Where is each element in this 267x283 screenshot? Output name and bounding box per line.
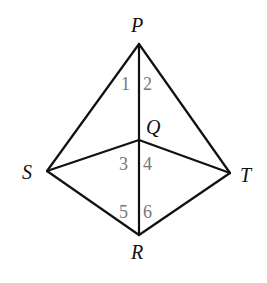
angle-label-1: 1	[121, 74, 130, 94]
vertex-label-s: S	[22, 161, 32, 183]
angle-label-6: 6	[143, 202, 152, 222]
edges	[47, 44, 230, 235]
edge-rt	[139, 173, 230, 235]
angle-labels: 1 2 3 4 5 6	[119, 74, 152, 222]
vertex-label-p: P	[130, 14, 143, 36]
vertex-labels: P Q S T R	[22, 14, 253, 263]
vertex-label-t: T	[240, 164, 253, 186]
angle-label-3: 3	[119, 154, 128, 174]
edge-qt	[139, 140, 230, 173]
vertex-label-r: R	[130, 241, 143, 263]
angle-label-4: 4	[143, 154, 152, 174]
angle-label-5: 5	[119, 202, 128, 222]
edge-pt	[139, 44, 230, 173]
edge-ps	[47, 44, 139, 171]
geometry-diagram: P Q S T R 1 2 3 4 5 6	[0, 0, 267, 283]
angle-label-2: 2	[143, 74, 152, 94]
vertex-label-q: Q	[146, 116, 161, 138]
